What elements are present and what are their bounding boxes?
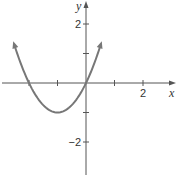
curve-arrow-left — [13, 41, 19, 49]
parabola-curve — [15, 46, 101, 112]
x-axis-label: x — [168, 86, 175, 100]
curve-layer — [13, 41, 103, 112]
y-tick-label: −2 — [68, 136, 81, 148]
axes — [2, 1, 176, 175]
y-tick-label: 2 — [75, 18, 81, 30]
x-axis-arrow — [169, 81, 176, 86]
y-axis-arrow — [84, 1, 89, 8]
chart: 22−2 x y — [0, 0, 177, 175]
x-tick-label: 2 — [140, 87, 146, 99]
curve-arrow-right — [97, 41, 103, 49]
y-axis-label: y — [75, 0, 82, 13]
